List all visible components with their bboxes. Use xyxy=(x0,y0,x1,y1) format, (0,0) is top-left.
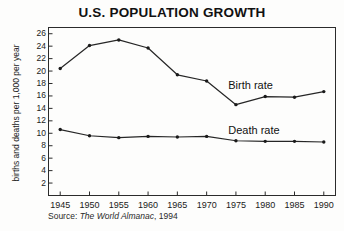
x-tick-label: 1990 xyxy=(307,200,341,210)
source-year: , 1994 xyxy=(154,211,178,221)
source-prefix: Source: xyxy=(48,211,80,221)
y-axis-title: births and deaths per 1,000 per year xyxy=(11,33,21,193)
chart-figure: U.S. POPULATION GROWTH 26242220181614121… xyxy=(0,0,344,231)
source-note: Source: The World Almanac, 1994 xyxy=(48,211,178,221)
x-axis-tick-labels: 1945195019551960196519701975198019851990 xyxy=(0,0,344,231)
series-label-death-rate: Death rate xyxy=(228,124,279,136)
source-publication: The World Almanac xyxy=(80,211,154,221)
series-label-birth-rate: Birth rate xyxy=(228,79,273,91)
